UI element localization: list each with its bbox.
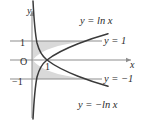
x-axis-label: x	[130, 60, 134, 70]
curve-label-negative-ln-x: y = −ln x	[78, 100, 118, 111]
line-label-y-equals-1: y = 1	[104, 36, 126, 47]
curve-label-ln-x: y = ln x	[80, 16, 112, 27]
y-axis-label: y	[27, 6, 31, 16]
tick-label-x-one: 1	[45, 62, 50, 72]
tick-label-y-one: 1	[20, 38, 25, 48]
math-graph-figure: y x O 1 −1 1 y = ln x y = 1 y = −1 y = −…	[0, 0, 143, 121]
origin-label: O	[20, 57, 27, 67]
tick-label-y-negative-one: −1	[12, 77, 23, 87]
line-label-y-equals-negative-1: y = −1	[104, 74, 133, 85]
